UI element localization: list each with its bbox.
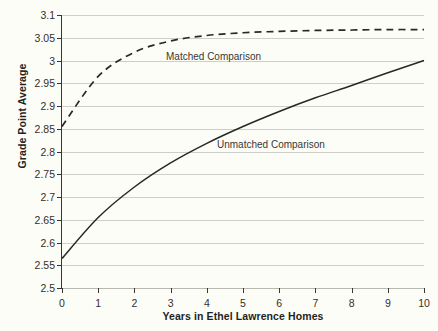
y-axis-tick-label: 3.05 xyxy=(35,32,55,44)
y-axis-tick-label: 2.75 xyxy=(35,168,55,180)
series-line-matched xyxy=(62,30,424,127)
x-axis-tick-label: 10 xyxy=(418,297,430,309)
x-axis-tick-label: 5 xyxy=(240,297,246,309)
x-axis-tick xyxy=(352,288,353,293)
x-axis-tick-label: 0 xyxy=(59,297,65,309)
x-axis-tick-label: 6 xyxy=(276,297,282,309)
y-axis-tick-label: 3.1 xyxy=(40,9,55,21)
x-axis-tick-label: 2 xyxy=(131,297,137,309)
x-axis-tick xyxy=(62,288,63,293)
x-axis-tick-label: 3 xyxy=(168,297,174,309)
y-axis-tick-label: 2.55 xyxy=(35,259,55,271)
x-axis-tick xyxy=(134,288,135,293)
y-axis-tick-label: 2.5 xyxy=(40,282,55,294)
x-axis-tick-label: 9 xyxy=(385,297,391,309)
x-axis-tick xyxy=(98,288,99,293)
y-axis-tick-label: 2.6 xyxy=(40,237,55,249)
x-axis-tick xyxy=(279,288,280,293)
x-axis-title: Years in Ethel Lawrence Homes xyxy=(62,310,424,322)
y-axis-tick-label: 2.65 xyxy=(35,214,55,226)
y-axis-tick-label: 2.85 xyxy=(35,123,55,135)
y-axis-tick-label: 3 xyxy=(49,55,55,67)
chart-figure: Grade Point Average Years in Ethel Lawre… xyxy=(0,0,438,331)
x-axis-tick xyxy=(315,288,316,293)
y-axis-tick-label: 2.8 xyxy=(40,146,55,158)
y-axis-tick-label: 2.95 xyxy=(35,77,55,89)
x-axis-tick xyxy=(388,288,389,293)
x-axis-tick-label: 8 xyxy=(349,297,355,309)
x-axis-tick xyxy=(207,288,208,293)
series-label-matched: Matched Comparison xyxy=(166,51,261,62)
y-axis-tick-label: 2.9 xyxy=(40,100,55,112)
series-line-unmatched xyxy=(62,61,424,259)
y-axis-title: Grade Point Average xyxy=(16,36,28,196)
x-axis-tick xyxy=(424,288,425,293)
x-axis-tick-label: 4 xyxy=(204,297,210,309)
x-axis-tick xyxy=(243,288,244,293)
x-axis-tick-label: 1 xyxy=(95,297,101,309)
series-label-unmatched: Unmatched Comparison xyxy=(217,139,325,150)
y-axis-tick-label: 2.7 xyxy=(40,191,55,203)
plot-area: 2.52.552.62.652.72.752.82.852.92.9533.05… xyxy=(62,15,424,288)
x-axis-tick xyxy=(171,288,172,293)
x-axis-tick-label: 7 xyxy=(312,297,318,309)
